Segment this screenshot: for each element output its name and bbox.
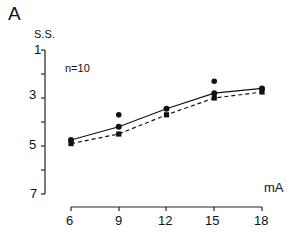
series-line-dashed [71, 92, 262, 144]
data-point-dashed [68, 141, 73, 146]
data-point-solid [116, 124, 122, 130]
x-axis [71, 207, 262, 211]
data-point-solid [211, 90, 217, 96]
y-axis [41, 50, 45, 194]
data-point-dashed [259, 89, 264, 94]
data-point-dashed [164, 112, 169, 117]
plot-area [0, 0, 299, 239]
significance-asterisk-icon [211, 78, 217, 84]
data-point-dashed [116, 131, 121, 136]
significance-asterisk-icon [116, 112, 122, 118]
data-point-dashed [212, 95, 217, 100]
data-point-solid [164, 106, 170, 112]
